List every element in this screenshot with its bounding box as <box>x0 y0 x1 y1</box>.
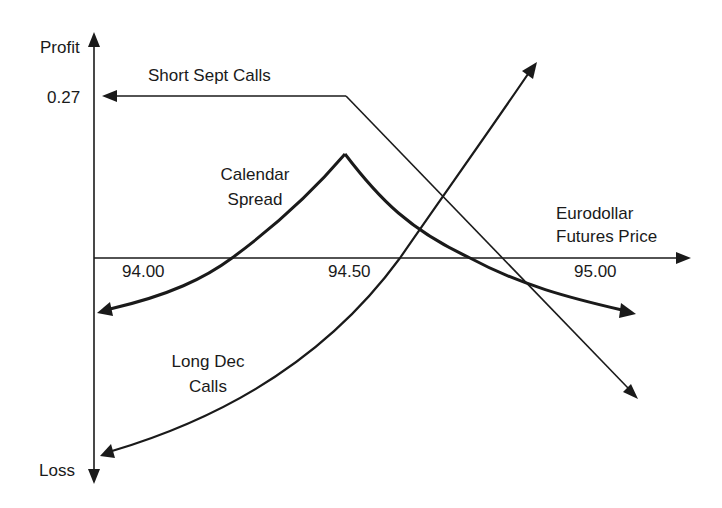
long-dec-down-arrow-icon <box>100 444 115 458</box>
y-axis-down-arrow-icon <box>88 469 100 484</box>
y-axis-label-loss: Loss <box>39 461 75 480</box>
calendar-spread-label-line2: Spread <box>210 190 300 209</box>
calendar-left-arrow-icon <box>97 302 113 316</box>
x-tick-label-9450: 94.50 <box>328 262 371 281</box>
y-tick-label-027: 0.27 <box>47 88 80 107</box>
x-tick-label-9400: 94.00 <box>122 262 165 281</box>
calendar-right-arrow-icon <box>619 303 636 318</box>
short-sept-calls-label: Short Sept Calls <box>148 66 271 85</box>
long-dec-calls-label-line1: Long Dec <box>162 352 254 371</box>
x-axis-title: Eurodollar Futures Price <box>556 204 657 246</box>
calendar-spread-label: Calendar Spread <box>210 165 300 209</box>
x-axis-title-line2: Futures Price <box>556 227 657 246</box>
long-dec-calls-label: Long Dec Calls <box>162 352 254 396</box>
long-dec-calls-label-line2: Calls <box>162 377 254 396</box>
long-dec-up-arrow-icon <box>522 62 537 79</box>
y-axis-up-arrow-icon <box>88 32 100 47</box>
x-tick-label-9500: 95.00 <box>574 262 617 281</box>
calendar-spread-label-line1: Calendar <box>210 165 300 184</box>
payoff-diagram <box>0 0 722 508</box>
short-sept-left-arrow-icon <box>102 90 117 102</box>
x-axis-title-line1: Eurodollar <box>556 204 657 223</box>
y-axis-label-profit: Profit <box>40 38 80 57</box>
x-axis-right-arrow-icon <box>676 252 691 264</box>
